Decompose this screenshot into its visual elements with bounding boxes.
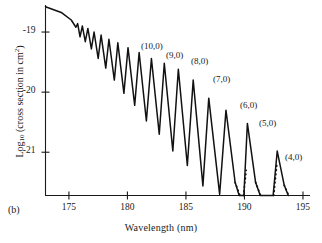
peak-label: (7,0)	[213, 74, 230, 84]
y-axis-title-exponent: 2	[13, 49, 21, 53]
y-axis-title-paren: )	[14, 45, 25, 48]
panel-label: (b)	[8, 204, 20, 215]
y-axis-title-rest: (cross section in cm	[14, 52, 25, 134]
peak-label: (4,0)	[285, 152, 302, 162]
peak-label: (10,0)	[141, 41, 163, 51]
axis-lines	[45, 5, 310, 196]
peak-label: (6,0)	[240, 100, 257, 110]
x-tick-label: 195	[288, 202, 318, 212]
figure-panel-b: -19-20-21 175180185190195 (10,0)(9,0)(8,…	[0, 0, 322, 243]
x-tick-label: 190	[229, 202, 259, 212]
y-axis-title-base: 10	[18, 134, 26, 141]
y-axis-title: Log10 (cross section in cm2)	[13, 17, 26, 187]
x-tick-label: 175	[54, 202, 84, 212]
x-tick-label: 185	[171, 202, 201, 212]
x-axis-title: Wavelength (nm)	[0, 222, 322, 233]
peak-label: (8,0)	[191, 56, 208, 66]
peak-label: (9,0)	[166, 50, 183, 60]
y-axis-title-log: Log	[14, 141, 25, 157]
x-tick-label: 180	[112, 202, 142, 212]
peak-label: (5,0)	[259, 118, 276, 128]
